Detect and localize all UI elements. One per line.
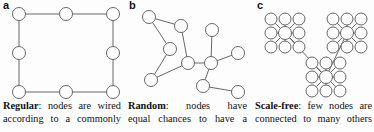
graph-node [143,11,156,24]
graph-node [13,8,26,21]
caption-word: a [65,112,70,125]
caption-word: connected [255,112,297,125]
caption-random-line1: Random: nodes have [128,99,247,112]
caption-word: few [307,99,322,112]
graph-node [182,57,195,70]
graph-edge [182,32,187,56]
spoke-edge [316,67,321,72]
graph-edge [209,87,231,91]
caption-regular-line2: according to a commonly [3,112,121,125]
caption-regular-lead: Regular [3,100,38,111]
graph-node [206,24,219,37]
caption-regular: Regular: nodes are wired according to a … [3,99,121,125]
graph-edge [157,66,182,78]
caption-word: according [3,112,44,125]
spoke-edge [275,23,280,28]
spoke-edge [352,38,357,43]
satellite-node [293,13,305,25]
graph-node [232,47,245,60]
caption-word: others [347,112,372,125]
satellite-node [341,41,353,53]
caption-word: have [215,112,234,125]
graph-edge [155,19,174,24]
graph-edge [217,55,232,60]
graph-node [60,86,73,99]
satellite-node [279,13,291,25]
graph-node [232,86,245,99]
graph-node [145,74,158,87]
satellite-node [327,27,339,39]
graph-node [197,80,210,93]
caption-scale-free-line1: Scale-free: few nodes are [255,99,372,112]
caption-word: chances [158,112,191,125]
spoke-edge [316,82,321,87]
caption-regular-sep: : [38,100,41,111]
graph-node [175,20,188,33]
caption-scale-free-line2: connected to many others [255,112,372,125]
caption-word: wired [98,99,121,112]
caption-word: to [51,112,59,125]
caption-word: nodes [186,99,210,112]
caption-regular-line1: Regular: nodes are wired [3,99,121,112]
satellite-node [279,41,291,53]
caption-random-line2: equal chances to have a [128,112,247,125]
hub-node [320,71,333,84]
network-topology-figure: a Regular: nodes are wired according to … [0,0,374,132]
graph-edge [205,69,209,80]
satellite-node [265,41,277,53]
caption-word: are [78,99,91,112]
graph-edge [154,55,166,75]
panel-scale-free: c Scale-free: few nodes are connected to… [250,0,374,132]
satellite-node [355,41,367,53]
caption-random: Random: nodes have equal chances to have… [128,99,247,125]
hub-node [341,27,354,40]
satellite-node [306,57,318,69]
random-network-graph [124,0,250,100]
graph-edge [211,36,212,56]
graph-node [107,8,120,21]
graph-node [205,57,218,70]
caption-scale-free: Scale-free: few nodes are connected to m… [255,99,372,125]
satellite-node [327,41,339,53]
caption-word: have [228,99,247,112]
spoke-edge [275,38,280,43]
satellite-node [306,71,318,83]
satellite-node [320,57,332,69]
satellite-node [293,41,305,53]
regular-network-graph [0,0,124,100]
graph-node [164,43,177,56]
satellite-node [355,27,367,39]
spoke-edge [290,23,295,28]
satellite-node [320,85,332,97]
spoke-edge [337,23,342,28]
spoke-edge [337,38,342,43]
caption-random-lead: Random [128,100,166,111]
graph-edge [153,22,167,43]
scale-free-network-graph [250,0,374,100]
caption-word: nodes [48,99,72,112]
satellite-node [306,85,318,97]
caption-word: commonly [77,112,121,125]
graph-node [107,47,120,60]
caption-word: a [242,112,247,125]
satellite-node [293,27,305,39]
graph-node [13,86,26,99]
caption-scale-free-sep: : [298,100,301,111]
satellite-node [265,27,277,39]
spoke-edge [331,67,336,72]
graph-node [107,86,120,99]
hub-node [279,27,292,40]
caption-random-sep: : [166,100,169,111]
satellite-node [355,13,367,25]
caption-word: nodes [329,99,353,112]
satellite-node [341,13,353,25]
caption-word: are [359,99,372,112]
satellite-node [334,71,346,83]
caption-word: to [303,112,311,125]
caption-word: to [199,112,207,125]
caption-word: equal [128,112,150,125]
panel-regular: a Regular: nodes are wired according to … [0,0,124,132]
satellite-node [334,85,346,97]
spoke-edge [331,82,336,87]
caption-scale-free-lead: Scale-free [255,100,298,111]
